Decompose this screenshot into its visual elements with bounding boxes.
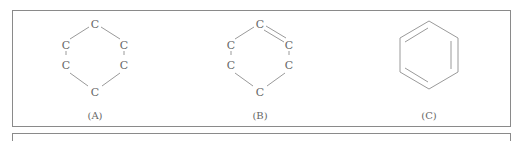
structures-diagram: C C C C C C (A) C C C C C C (B) (C): [0, 0, 521, 141]
atom-c-top: C: [91, 18, 99, 31]
structure-c-benzene: (C): [400, 21, 458, 121]
atom-c-lower-right: C: [285, 59, 293, 72]
atom-c-lower-left: C: [227, 59, 235, 72]
atom-c-bottom: C: [91, 86, 99, 99]
caption-c: (C): [421, 110, 437, 121]
atom-c-lower-right: C: [120, 59, 128, 72]
atom-c-lower-left: C: [62, 59, 70, 72]
atom-c-top: C: [256, 18, 264, 31]
structure-a: C C C C C C (A): [62, 18, 128, 121]
caption-a: (A): [87, 110, 102, 121]
structure-b: C C C C C C (B): [227, 18, 293, 121]
atom-c-upper-left: C: [62, 39, 70, 52]
caption-b: (B): [252, 110, 267, 121]
atom-c-upper-right: C: [120, 39, 128, 52]
atom-c-upper-right: C: [285, 39, 293, 52]
atom-c-bottom: C: [256, 86, 264, 99]
atom-c-upper-left: C: [227, 39, 235, 52]
